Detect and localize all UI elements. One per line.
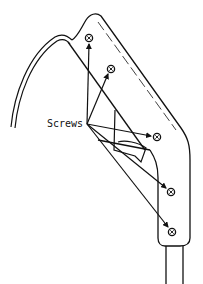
screws-callout-label: Screws [47,119,83,129]
screw-icon [167,188,174,195]
arrow-icon [87,74,108,124]
screw-icon [153,133,160,140]
arrow-icon [87,124,166,188]
arrow-icon [87,124,151,136]
trigger [114,110,146,162]
screws [85,34,175,235]
screw-icon [85,34,92,41]
screw-icon [168,228,175,235]
power-cord [11,35,72,128]
housing-diagram [0,0,203,284]
arrow-icon [87,44,89,124]
handle-housing [68,14,190,246]
shaft [166,246,183,284]
screw-icon [107,65,114,72]
